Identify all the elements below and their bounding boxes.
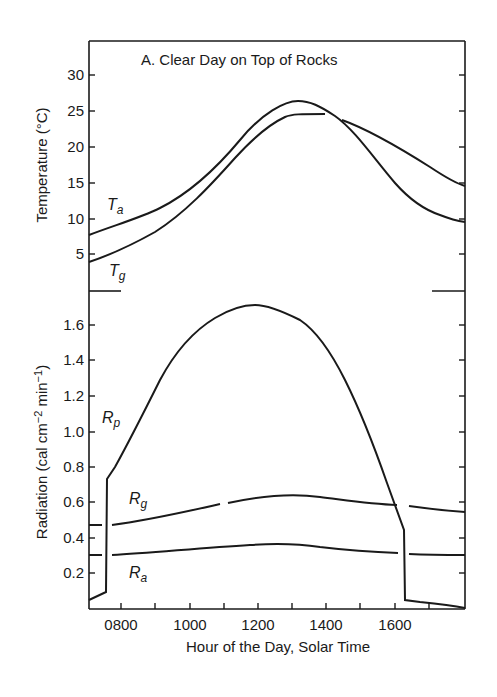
chart-figure: A. Clear Day on Top of Rocks 30 25 20 15… [0, 0, 497, 697]
tg-line-tail [342, 120, 465, 186]
panel-title: A. Clear Day on Top of Rocks [141, 51, 337, 68]
rg-line-mid [228, 495, 397, 505]
temp-tick-25: 25 [67, 102, 84, 119]
rad-tick-1.2: 1.2 [63, 387, 84, 404]
temp-tick-30: 30 [67, 66, 84, 83]
rp-label: Rp [102, 409, 121, 430]
x-tick-1400: 1400 [309, 616, 342, 633]
rad-tick-labels: 1.6 1.4 1.2 1.0 0.8 0.6 0.4 0.2 [63, 316, 84, 581]
x-tick-1200: 1200 [241, 616, 274, 633]
rad-tick-1.0: 1.0 [63, 423, 84, 440]
rad-tick-0.6: 0.6 [63, 493, 84, 510]
rad-tick-1.6: 1.6 [63, 316, 84, 333]
temp-tick-15: 15 [67, 174, 84, 191]
temperature-series [89, 101, 465, 262]
rad-tick-1.4: 1.4 [63, 351, 84, 368]
tg-line [89, 114, 325, 262]
temp-tick-10: 10 [67, 210, 84, 227]
temp-tick-5: 5 [76, 245, 84, 262]
rg-line-right [409, 506, 465, 512]
ta-label: Ta [107, 196, 124, 217]
radiation-series [89, 305, 465, 608]
rg-line [112, 504, 220, 525]
temp-tick-labels: 30 25 20 15 10 5 [67, 66, 84, 262]
plot-frame [89, 41, 465, 609]
rad-tick-0.2: 0.2 [63, 564, 84, 581]
tg-label: Tg [109, 262, 126, 283]
x-tick-labels: 0800 1000 1200 1400 1600 [104, 616, 411, 633]
temp-ticks [89, 75, 465, 254]
x-tick-1000: 1000 [173, 616, 206, 633]
ra-label: Ra [129, 564, 148, 585]
rad-tick-0.8: 0.8 [63, 458, 84, 475]
x-ticks [121, 603, 429, 609]
rad-ticks [89, 325, 465, 573]
x-axis-title: Hour of the Day, Solar Time [186, 638, 370, 655]
temp-axis-title: Temperature (°C) [33, 107, 50, 222]
rad-axis-title: Radiation (cal cm−2 min−1) [32, 365, 50, 539]
temp-tick-20: 20 [67, 138, 84, 155]
rp-line [89, 305, 465, 608]
ra-line-right [409, 554, 465, 555]
ra-line [112, 544, 398, 555]
rad-tick-0.4: 0.4 [63, 529, 84, 546]
x-tick-0800: 0800 [104, 616, 137, 633]
x-tick-1600: 1600 [378, 616, 411, 633]
rg-label: Rg [129, 490, 148, 511]
